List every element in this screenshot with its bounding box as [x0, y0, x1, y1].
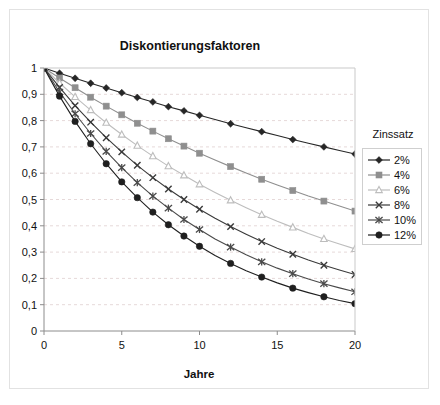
x-axis-title: Jahre [184, 368, 215, 380]
legend-title: Zinssatz [362, 128, 424, 140]
legend-marker-triangle-open-icon [366, 183, 392, 197]
data-point-marker [72, 85, 78, 91]
legend-marker-circle-icon [366, 228, 392, 242]
legend-marker-asterisk-icon [366, 213, 392, 227]
data-point-marker [181, 233, 187, 239]
data-point-marker [134, 120, 140, 126]
legend-item-6pct[interactable]: 6% [366, 182, 410, 197]
x-tick-label: 0 [41, 339, 47, 351]
data-point-marker [87, 141, 93, 147]
data-point-marker [197, 150, 203, 156]
legend-label: 4% [394, 169, 410, 181]
legend-item-10pct[interactable]: 10% [366, 212, 416, 227]
legend-marker-square-icon [366, 168, 392, 182]
y-tick-label: 0,2 [22, 272, 37, 284]
y-tick-label: 0,8 [22, 115, 37, 127]
x-tick-labels: 05101520 [41, 331, 361, 351]
y-tick-label: 0,3 [22, 246, 37, 258]
legend-label: 2% [394, 154, 410, 166]
legend-item-8pct[interactable]: 8% [366, 197, 410, 212]
y-tick-label: 0 [31, 325, 37, 337]
x-tick-label: 20 [349, 339, 361, 351]
legend-label: 6% [394, 184, 410, 196]
legend-box: 2%4%6%8%10%12% [362, 148, 422, 245]
data-point-marker [376, 172, 382, 178]
data-point-marker [321, 294, 327, 300]
data-point-marker [321, 198, 327, 204]
y-tick-label: 0,1 [22, 299, 37, 311]
data-point-marker [165, 222, 171, 228]
data-point-marker [103, 161, 109, 167]
legend-label: 10% [394, 214, 416, 226]
data-point-marker [259, 176, 265, 182]
y-tick-label: 0,6 [22, 167, 37, 179]
x-tick-label: 5 [119, 339, 125, 351]
y-tick-label: 0,7 [22, 141, 37, 153]
data-point-marker [150, 128, 156, 134]
data-point-marker [150, 209, 156, 215]
data-point-marker [165, 136, 171, 142]
data-point-marker [196, 243, 202, 249]
y-tick-label: 0,9 [22, 88, 37, 100]
data-point-marker [227, 260, 233, 266]
data-point-marker [181, 143, 187, 149]
data-point-marker [290, 285, 296, 291]
x-tick-label: 10 [193, 339, 205, 351]
legend-label: 12% [394, 229, 416, 241]
data-point-marker [119, 179, 125, 185]
legend-item-2pct[interactable]: 2% [366, 152, 410, 167]
data-point-marker [259, 274, 265, 280]
data-point-marker [119, 112, 125, 118]
data-point-marker [228, 164, 234, 170]
legend-item-12pct[interactable]: 12% [366, 227, 416, 242]
legend-item-4pct[interactable]: 4% [366, 167, 410, 182]
data-point-marker [376, 156, 383, 163]
data-point-marker [376, 231, 382, 237]
x-tick-label: 15 [271, 339, 283, 351]
data-point-marker [72, 118, 78, 124]
chart-figure: Diskontierungsfaktoren in Abhängigkeit d… [0, 0, 440, 405]
y-tick-label: 1 [31, 62, 37, 74]
data-point-marker [88, 94, 94, 100]
legend-label: 8% [394, 199, 410, 211]
y-tick-label: 0,4 [22, 220, 37, 232]
data-point-marker [134, 194, 140, 200]
data-point-marker [56, 93, 62, 99]
legend-marker-diamond-icon [366, 153, 392, 167]
data-point-marker [103, 103, 109, 109]
y-tick-label: 0,5 [22, 194, 37, 206]
data-point-marker [290, 188, 296, 194]
y-tick-labels: 10,90,80,70,60,50,40,30,20,10 [22, 62, 44, 337]
legend-marker-x-icon [366, 198, 392, 212]
